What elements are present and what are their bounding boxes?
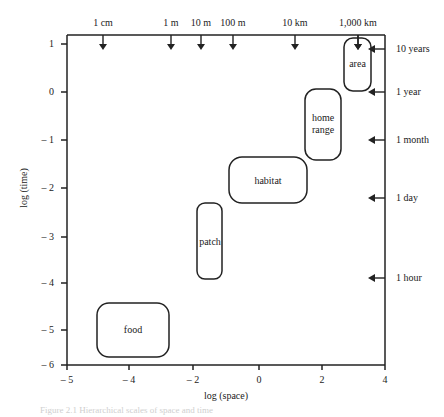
space-marker-label: 10 km [282, 17, 308, 28]
time-marker-label: 1 hour [396, 272, 423, 283]
y-tick-label: 0 [49, 86, 54, 97]
y-tick-label: – 6 [41, 359, 55, 370]
x-tick-label: – 5 [60, 374, 74, 385]
x-axis-tick-labels: – 5 – 4 – 2 0 2 4 [60, 374, 388, 385]
space-marker-label: 1 m [163, 17, 179, 28]
arrowhead-icon [368, 88, 375, 96]
space-marker-label: 1,000 km [339, 17, 377, 28]
x-tick-label: – 4 [122, 374, 136, 385]
y-axis-ticks [61, 44, 67, 365]
time-marker-label: 1 year [396, 86, 421, 97]
arrowhead-icon [368, 194, 375, 202]
arrowhead-icon [368, 136, 375, 144]
habitat-label: habitat [254, 175, 281, 186]
food-label: food [124, 324, 142, 335]
patch-label: patch [199, 236, 221, 247]
area-label: area [349, 58, 366, 69]
y-tick-label: – 3 [41, 231, 55, 242]
home-range-label: home [312, 112, 335, 123]
y-axis-label: log (time) [18, 168, 30, 208]
space-marker-label: 100 m [220, 17, 246, 28]
scale-diagram: 1 0 – 1 – 2 – 3 – 4 – 5 – 6 log (time) –… [0, 0, 444, 417]
time-markers: 10 years 1 year 1 month 1 day 1 hour [368, 43, 430, 283]
y-tick-label: – 4 [41, 277, 55, 288]
x-tick-label: – 2 [186, 374, 200, 385]
x-tick-label: 4 [383, 374, 388, 385]
x-axis-label: log (space) [204, 390, 248, 402]
arrowhead-icon [99, 44, 107, 50]
y-tick-label: 1 [49, 38, 54, 49]
home-range-label: range [312, 124, 335, 135]
time-marker-label: 1 month [396, 134, 429, 145]
arrowhead-icon [368, 274, 375, 282]
arrowhead-icon [167, 44, 175, 50]
y-axis-tick-labels: 1 0 – 1 – 2 – 3 – 4 – 5 – 6 [41, 38, 55, 370]
arrowhead-icon [291, 44, 299, 50]
time-marker-label: 10 years [396, 43, 430, 54]
y-tick-label: – 2 [41, 182, 55, 193]
y-tick-label: – 5 [41, 324, 55, 335]
x-tick-label: 0 [257, 374, 262, 385]
figure-caption: Figure 2.1 Hierarchical scales of space … [40, 405, 213, 415]
arrowhead-icon [197, 44, 205, 50]
plot-frame [67, 35, 385, 365]
space-marker-label: 10 m [191, 17, 212, 28]
space-marker-label: 1 cm [93, 17, 113, 28]
y-tick-label: – 1 [41, 134, 55, 145]
time-marker-label: 1 day [396, 192, 418, 203]
space-markers: 1 cm 1 m 10 m 100 m 10 km 1,000 km [93, 17, 377, 50]
arrowhead-icon [229, 44, 237, 50]
x-tick-label: 2 [320, 374, 325, 385]
